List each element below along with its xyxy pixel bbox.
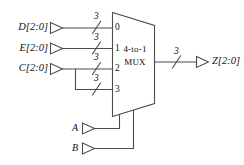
select-label-b: B — [58, 143, 78, 153]
bus-width-in1: 3 — [94, 33, 99, 43]
wire-a-select — [95, 115, 120, 129]
circuit-diagram: D[2:0] E[2:0] C[2:0] 3 3 3 3 0 1 2 3 4-t… — [0, 0, 244, 165]
input-label-c: C[2:0] — [0, 63, 48, 74]
input-label-d: D[2:0] — [0, 22, 48, 33]
select-label-a: A — [58, 123, 78, 133]
bus-width-out: 3 — [174, 47, 179, 57]
bus-width-in2: 3 — [94, 53, 99, 63]
bus-width-in3: 3 — [94, 74, 99, 84]
buffer-icon-a — [83, 123, 95, 134]
buffer-icon-e — [51, 43, 63, 54]
mux-port-0-label: 0 — [115, 23, 120, 33]
buffer-icon-b — [83, 143, 95, 154]
buffer-icon-d — [51, 23, 63, 34]
bus-width-in0: 3 — [94, 12, 99, 22]
output-label-z: Z[2:0] — [212, 56, 244, 67]
buffer-icon-c — [51, 64, 63, 75]
mux-name-label: MUX — [119, 58, 151, 67]
input-label-e: E[2:0] — [0, 43, 48, 54]
mux-port-3-label: 3 — [115, 85, 120, 95]
buffer-icon-z — [197, 57, 209, 68]
mux-type-label: 4-to-1 — [119, 45, 151, 54]
